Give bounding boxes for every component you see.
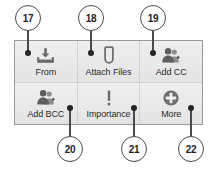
callout-22: 22 — [178, 136, 204, 162]
leader-dot-20 — [67, 105, 73, 111]
callout-22-number: 22 — [186, 144, 197, 155]
leader-line-20 — [69, 108, 71, 136]
toolbar-row-bottom: Add BCC Importance — [15, 83, 202, 124]
callout-21: 21 — [121, 136, 147, 162]
leader-dot-19 — [150, 50, 156, 56]
toolbar-label-attach-files: Attach Files — [86, 67, 132, 78]
toolbar-label-add-bcc: Add BCC — [27, 109, 64, 120]
exclamation-icon — [105, 87, 113, 108]
callout-19: 19 — [140, 5, 166, 31]
toolbar-button-add-cc[interactable]: Add CC — [139, 41, 202, 82]
callout-17-number: 17 — [23, 13, 34, 24]
toolbar-row-top: From Attach Files — [15, 41, 202, 83]
annotated-toolbar-figure: From Attach Files — [0, 0, 217, 170]
callout-20-number: 20 — [65, 144, 76, 155]
callout-18: 18 — [78, 5, 104, 31]
callout-17: 17 — [15, 5, 41, 31]
toolbar-button-add-bcc[interactable]: Add BCC — [15, 83, 77, 124]
toolbar-button-attach-files[interactable]: Attach Files — [77, 41, 140, 82]
callout-19-number: 19 — [148, 13, 159, 24]
toolbar-label-add-cc: Add CC — [156, 67, 187, 78]
email-compose-toolbar: From Attach Files — [14, 40, 203, 125]
leader-dot-22 — [188, 105, 194, 111]
paperclip-icon — [102, 45, 116, 66]
leader-line-21 — [133, 108, 135, 136]
toolbar-button-importance[interactable]: Importance — [77, 83, 140, 124]
toolbar-label-importance: Importance — [86, 109, 130, 120]
leader-dot-17 — [25, 50, 31, 56]
toolbar-label-more: More — [161, 109, 181, 120]
leader-dot-21 — [131, 105, 137, 111]
inbox-download-icon — [36, 45, 55, 66]
people-add-icon — [36, 87, 56, 108]
people-add-icon — [161, 45, 181, 66]
leader-dot-18 — [88, 50, 94, 56]
toolbar-label-from: From — [36, 67, 57, 78]
callout-20: 20 — [57, 136, 83, 162]
callout-21-number: 21 — [129, 144, 140, 155]
leader-line-22 — [190, 108, 192, 136]
plus-circle-icon — [162, 87, 180, 108]
toolbar-button-from[interactable]: From — [15, 41, 77, 82]
toolbar-button-more[interactable]: More — [139, 83, 202, 124]
callout-18-number: 18 — [86, 13, 97, 24]
